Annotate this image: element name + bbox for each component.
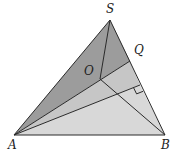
pyramid-diagram: S Q O A B	[0, 0, 180, 154]
label-O: O	[84, 64, 94, 78]
label-Q: Q	[134, 43, 144, 57]
label-A: A	[7, 138, 17, 152]
label-S: S	[106, 2, 114, 16]
label-B: B	[160, 138, 170, 152]
